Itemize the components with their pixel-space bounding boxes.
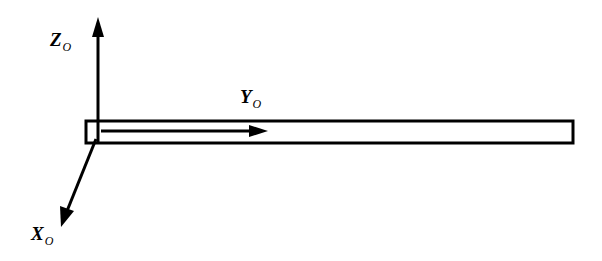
y-axis-label: YO [240,87,261,110]
x-axis-label: XO [31,224,53,247]
coordinate-diagram [0,0,602,261]
y-axis-label-subscript: O [253,97,262,111]
y-axis-arrowhead-icon [249,125,268,137]
z-axis-label: ZO [50,30,71,53]
diagram-canvas: ZO YO XO [0,0,602,261]
z-axis-label-subscript: O [63,40,72,54]
z-axis-label-main: Z [50,29,62,50]
y-axis-label-main: Y [240,86,252,107]
x-axis-arrowhead-icon [60,206,74,227]
x-axis-label-subscript: O [45,234,54,248]
x-axis-label-main: X [31,223,44,244]
z-axis-arrowhead-icon [92,17,104,37]
x-axis-line [67,139,96,211]
